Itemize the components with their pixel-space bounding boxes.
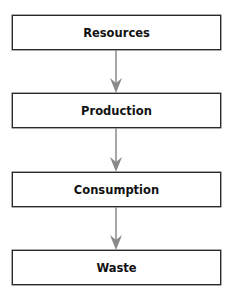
arrow-resources-to-production	[108, 50, 124, 93]
down-arrow-icon	[108, 207, 124, 250]
node-label: Resources	[83, 26, 150, 40]
arrow-production-to-consumption	[108, 128, 124, 172]
node-production: Production	[12, 93, 221, 128]
node-resources: Resources	[12, 15, 221, 50]
node-label: Consumption	[74, 183, 159, 197]
node-consumption: Consumption	[12, 172, 221, 207]
node-label: Production	[81, 104, 152, 118]
down-arrow-icon	[108, 128, 124, 172]
arrow-consumption-to-waste	[108, 207, 124, 250]
node-waste: Waste	[12, 250, 221, 285]
node-label: Waste	[96, 261, 136, 275]
down-arrow-icon	[108, 50, 124, 93]
